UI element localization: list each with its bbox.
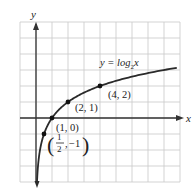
y-axis-label: y (30, 8, 36, 20)
data-point (50, 116, 55, 121)
svg-text:1: 1 (57, 132, 62, 142)
function-label: y = log2x (99, 57, 139, 71)
data-point (42, 132, 47, 137)
point-label-2-1: (2, 1) (75, 102, 98, 114)
point-label-4-2: (4, 2) (108, 89, 131, 101)
data-point (66, 100, 71, 105)
svg-text:,: , (65, 138, 68, 149)
x-axis-label: x (185, 112, 191, 124)
svg-text:(: ( (47, 132, 54, 157)
grid (20, 22, 180, 182)
svg-text:2: 2 (57, 144, 62, 154)
curve-down-arrow-icon (35, 181, 40, 188)
y-axis-arrow-icon (33, 22, 39, 30)
data-point (98, 84, 103, 89)
svg-text:): ) (82, 132, 89, 157)
svg-text:−1: −1 (69, 138, 80, 149)
log-graph: y x y = log2x (4, 2) (2, 1) (1, 0) ( 1 2… (0, 0, 195, 196)
